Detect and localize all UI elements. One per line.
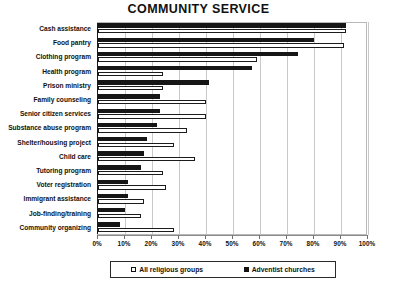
- bar-adventist-churches: [98, 66, 252, 70]
- category-axis-labels: Cash assistanceFood pantryClothing progr…: [0, 22, 94, 235]
- x-tick-label: 0%: [82, 240, 112, 247]
- bar-adventist-churches: [98, 180, 128, 184]
- category-label: Child care: [0, 153, 91, 161]
- bar-row: [98, 221, 368, 235]
- bar-all-religious-groups: [98, 29, 346, 33]
- category-label: Job-finding/training: [0, 210, 91, 218]
- bar-adventist-churches: [98, 23, 346, 27]
- bar-adventist-churches: [98, 80, 209, 84]
- bar-all-religious-groups: [98, 199, 144, 203]
- bar-adventist-churches: [98, 94, 160, 98]
- x-tick-label: 40%: [190, 240, 220, 247]
- x-tick-label: 60%: [244, 240, 274, 247]
- filled-square-swatch-icon: [244, 267, 249, 272]
- x-tick-mark: [124, 235, 125, 239]
- x-tick-label: 90%: [325, 240, 355, 247]
- category-label: Tutoring program: [0, 167, 91, 175]
- category-label: Cash assistance: [0, 25, 91, 33]
- plot-area: [97, 22, 368, 235]
- bar-adventist-churches: [98, 38, 314, 42]
- category-label: Food pantry: [0, 39, 91, 47]
- bar-row: [98, 79, 368, 93]
- bar-row: [98, 121, 368, 135]
- legend-label-adventist-churches: Adventist churches: [252, 266, 315, 273]
- x-tick-mark: [97, 235, 98, 239]
- bar-adventist-churches: [98, 52, 298, 56]
- x-tick-label: 100%: [352, 240, 382, 247]
- category-label: Shelter/housing project: [0, 139, 91, 147]
- bar-adventist-churches: [98, 194, 128, 198]
- category-label: Community organizing: [0, 224, 91, 232]
- x-tick-label: 70%: [271, 240, 301, 247]
- x-tick-mark: [151, 235, 152, 239]
- bar-row: [98, 192, 368, 206]
- x-tick-label: 30%: [163, 240, 193, 247]
- bar-adventist-churches: [98, 109, 160, 113]
- bar-row: [98, 36, 368, 50]
- x-tick-mark: [286, 235, 287, 239]
- category-label: Immigrant assistance: [0, 195, 91, 203]
- bar-all-religious-groups: [98, 214, 141, 218]
- bar-all-religious-groups: [98, 57, 257, 61]
- legend-label-all-religious-groups: All religious groups: [139, 266, 203, 273]
- bar-all-religious-groups: [98, 86, 163, 90]
- bar-all-religious-groups: [98, 100, 206, 104]
- bar-row: [98, 22, 368, 36]
- bar-all-religious-groups: [98, 228, 174, 232]
- bar-all-religious-groups: [98, 171, 163, 175]
- bar-row: [98, 150, 368, 164]
- x-tick-mark: [232, 235, 233, 239]
- bar-all-religious-groups: [98, 43, 344, 47]
- bar-row: [98, 93, 368, 107]
- x-tick-mark: [340, 235, 341, 239]
- x-tick-label: 80%: [298, 240, 328, 247]
- chart-legend: All religious groups Adventist churches: [110, 261, 336, 278]
- category-label: Senior citizen services: [0, 110, 91, 118]
- x-tick-label: 50%: [217, 240, 247, 247]
- bar-row: [98, 107, 368, 121]
- category-label: Clothing program: [0, 53, 91, 61]
- bar-all-religious-groups: [98, 157, 195, 161]
- bar-adventist-churches: [98, 208, 125, 212]
- bar-adventist-churches: [98, 165, 141, 169]
- x-tick-mark: [205, 235, 206, 239]
- open-square-swatch-icon: [131, 267, 136, 272]
- bar-all-religious-groups: [98, 72, 163, 76]
- bar-all-religious-groups: [98, 143, 174, 147]
- bar-all-religious-groups: [98, 185, 166, 189]
- chart-title: COMMUNITY SERVICE: [0, 2, 397, 16]
- x-tick-mark: [259, 235, 260, 239]
- bar-all-religious-groups: [98, 128, 187, 132]
- bar-row: [98, 207, 368, 221]
- community-service-chart: COMMUNITY SERVICE Cash assistanceFood pa…: [0, 0, 397, 281]
- bar-row: [98, 178, 368, 192]
- x-tick-label: 10%: [109, 240, 139, 247]
- x-tick-mark: [313, 235, 314, 239]
- category-label: Health program: [0, 68, 91, 76]
- category-label: Substance abuse program: [0, 124, 91, 132]
- category-label: Family counseling: [0, 96, 91, 104]
- bar-row: [98, 50, 368, 64]
- bar-row: [98, 136, 368, 150]
- x-tick-label: 20%: [136, 240, 166, 247]
- x-tick-mark: [178, 235, 179, 239]
- bar-adventist-churches: [98, 137, 147, 141]
- bar-row: [98, 65, 368, 79]
- bar-adventist-churches: [98, 222, 120, 226]
- bar-adventist-churches: [98, 151, 144, 155]
- gridline-100: [368, 22, 369, 235]
- legend-item-adventist-churches: Adventist churches: [244, 266, 315, 273]
- x-tick-mark: [367, 235, 368, 239]
- bar-rows: [98, 22, 368, 235]
- category-label: Prison ministry: [0, 82, 91, 90]
- bar-all-religious-groups: [98, 114, 206, 118]
- category-label: Voter registration: [0, 181, 91, 189]
- bar-adventist-churches: [98, 123, 157, 127]
- bar-row: [98, 164, 368, 178]
- legend-item-all-religious-groups: All religious groups: [131, 266, 203, 273]
